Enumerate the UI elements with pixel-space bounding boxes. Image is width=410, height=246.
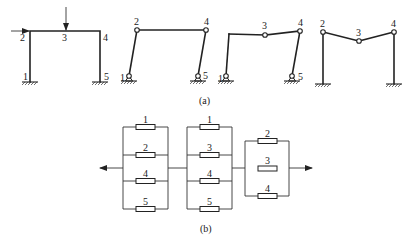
- node-label: 1: [23, 71, 28, 82]
- parallel-group-3: 2 3 4: [245, 128, 289, 199]
- node-label: 4: [391, 18, 396, 29]
- component-label: 5: [207, 196, 212, 207]
- component-box: [258, 194, 277, 199]
- node-label: 5: [104, 71, 109, 82]
- hinge-icon: [135, 28, 140, 33]
- node-label: 4: [103, 32, 108, 43]
- node-label: 5: [203, 70, 208, 81]
- hinge-icon: [263, 33, 268, 38]
- node-label: 4: [204, 16, 209, 27]
- frame-2-sway-mechanism: 2 4 1 5: [120, 16, 209, 84]
- component-box: [200, 153, 219, 158]
- frame-1-rigid: 2 3 4 1 5: [11, 7, 109, 85]
- parallel-group-2: 1 3 4 5: [187, 114, 232, 212]
- caption-b: (b): [200, 223, 212, 235]
- component-box: [258, 139, 277, 144]
- fixed-support-icon: [315, 84, 331, 87]
- node-label: 2: [20, 32, 25, 43]
- fixed-support-icon: [386, 84, 402, 87]
- component-label: 4: [265, 183, 270, 194]
- component-box: [136, 179, 155, 184]
- component-box: [200, 207, 219, 212]
- component-label: 1: [207, 114, 212, 125]
- hinge-icon: [321, 30, 326, 35]
- component-label: 3: [207, 142, 212, 153]
- component-box: [200, 179, 219, 184]
- node-label: 2: [320, 18, 325, 29]
- component-label: 4: [143, 168, 148, 179]
- fixed-support-icon: [92, 82, 108, 85]
- node-label: 2: [134, 16, 139, 27]
- caption-a: (a): [199, 95, 210, 107]
- hinge-icon: [298, 29, 303, 34]
- component-box: [258, 166, 277, 171]
- reliability-network: 1 2 4 5 1 3 4 5: [100, 114, 312, 212]
- component-box: [136, 153, 155, 158]
- component-label: 1: [143, 114, 148, 125]
- component-box: [200, 125, 219, 130]
- component-box: [136, 125, 155, 130]
- component-label: 2: [143, 142, 148, 153]
- node-label: 1: [218, 73, 223, 84]
- component-box: [136, 207, 155, 212]
- diagram-canvas: 2 3 4 1 5 2 4 1 5 3 4 1 5: [0, 0, 410, 246]
- fixed-support-icon: [22, 82, 38, 85]
- node-label: 1: [120, 72, 125, 83]
- parallel-group-1: 1 2 4 5: [123, 114, 168, 212]
- component-label: 2: [265, 128, 270, 139]
- node-label: 5: [298, 71, 303, 82]
- node-label: 3: [356, 27, 361, 38]
- hinge-icon: [204, 28, 209, 33]
- component-label: 4: [207, 168, 212, 179]
- hinge-icon: [392, 30, 397, 35]
- node-label: 4: [298, 17, 303, 28]
- frame-4-beam-mechanism: 2 3 4: [315, 18, 402, 87]
- frame-3-combined-mechanism: 3 4 1 5: [218, 17, 303, 84]
- node-label: 3: [262, 20, 267, 31]
- hinge-icon: [357, 39, 362, 44]
- node-label: 3: [62, 32, 67, 43]
- component-label: 3: [265, 155, 270, 166]
- component-label: 5: [143, 196, 148, 207]
